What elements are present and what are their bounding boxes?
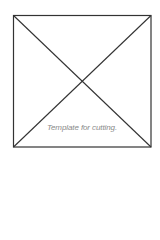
template-caption: Template for cutting. — [13, 123, 151, 132]
